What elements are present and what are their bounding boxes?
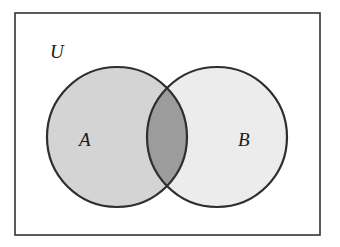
- set-a-label: A: [77, 129, 91, 150]
- set-b-label: B: [238, 129, 250, 150]
- universe-label: U: [50, 41, 65, 62]
- venn-diagram: U A B: [0, 0, 340, 247]
